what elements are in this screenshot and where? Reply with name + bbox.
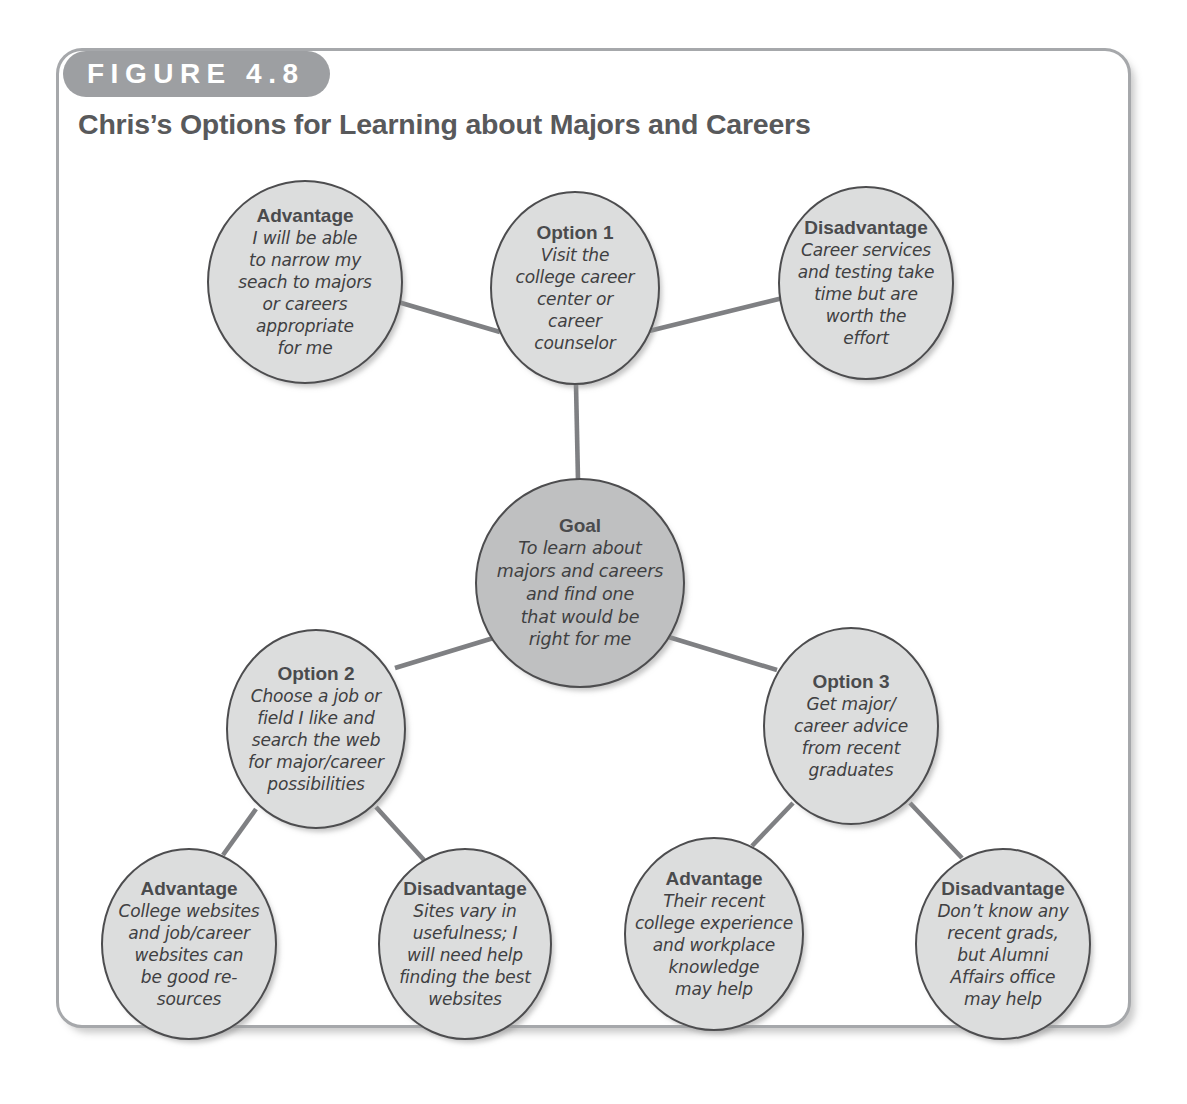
node-body-goal: To learn about majors and careers and fi…: [490, 537, 670, 651]
node-title-dis3: Disadvantage: [937, 878, 1069, 899]
edge-option1-to-dis1: [649, 297, 787, 331]
node-title-adv1: Advantage: [252, 205, 357, 226]
node-title-goal: Goal: [555, 515, 605, 536]
edge-option3-to-dis3: [910, 803, 962, 858]
node-adv3: AdvantageTheir recent college experience…: [624, 837, 804, 1031]
edge-option3-to-adv3: [752, 803, 793, 846]
edge-adv1-to-option1: [398, 302, 500, 332]
node-title-option2: Option 2: [273, 663, 358, 684]
edge-option1-to-goal: [576, 385, 578, 480]
node-title-dis2: Disadvantage: [399, 878, 531, 899]
edge-option2-to-adv2: [223, 809, 256, 855]
node-dis3: DisadvantageDon’t know any recent grads,…: [915, 848, 1091, 1040]
node-body-option2: Choose a job or field I like and search …: [241, 685, 391, 795]
node-option2: Option 2Choose a job or field I like and…: [226, 629, 406, 829]
node-body-option3: Get major/ career advice from recent gra…: [787, 693, 915, 781]
node-title-option3: Option 3: [808, 671, 893, 692]
node-dis2: DisadvantageSites vary in usefulness; I …: [378, 848, 552, 1040]
node-body-adv2: College websites and job/career websites…: [111, 900, 266, 1010]
node-body-adv3: Their recent college experience and work…: [628, 890, 800, 1000]
node-title-adv3: Advantage: [661, 868, 766, 889]
node-body-dis1: Career services and testing take time bu…: [791, 239, 942, 349]
edge-goal-to-option3: [662, 635, 777, 670]
node-body-dis2: Sites vary in usefulness; I will need he…: [392, 900, 538, 1010]
figure-diagram: FIGURE 4.8 Chris’s Options for Learning …: [0, 0, 1187, 1104]
edge-goal-to-option2: [395, 636, 500, 668]
node-dis1: DisadvantageCareer services and testing …: [778, 186, 954, 380]
node-body-option1: Visit the college career center or caree…: [509, 244, 642, 354]
node-adv1: AdvantageI will be able to narrow my sea…: [207, 180, 403, 384]
edge-option2-to-dis2: [376, 807, 424, 860]
node-goal: GoalTo learn about majors and careers an…: [475, 478, 685, 688]
node-title-option1: Option 1: [532, 222, 617, 243]
node-body-dis3: Don’t know any recent grads, but Alumni …: [930, 900, 1075, 1010]
node-adv2: AdvantageCollege websites and job/career…: [101, 848, 277, 1040]
node-option3: Option 3Get major/ career advice from re…: [763, 627, 939, 825]
node-option1: Option 1Visit the college career center …: [490, 191, 660, 385]
node-title-adv2: Advantage: [136, 878, 241, 899]
node-title-dis1: Disadvantage: [800, 217, 932, 238]
node-body-adv1: I will be able to narrow my seach to maj…: [231, 227, 378, 360]
